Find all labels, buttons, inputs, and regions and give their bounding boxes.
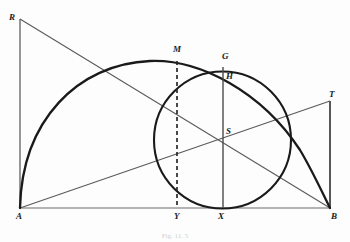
large-arc-amb [20,61,330,208]
point-label-m: M [173,45,181,54]
point-label-t: T [329,90,335,99]
diagonal-segment-at [20,101,330,208]
point-label-g: G [222,52,229,61]
point-label-h: H [226,72,233,81]
point-label-s: S [226,127,231,136]
point-label-a: A [16,212,22,221]
figure-caption: Fig. 11. 5 [0,232,350,240]
point-label-b: B [331,212,337,221]
point-label-x: X [218,212,224,221]
figure-canvas [0,0,350,242]
point-label-r: R [9,13,15,22]
geometric-figure: R M G H T S A Y X B Fig. 11. 5 [0,0,350,242]
point-label-y: Y [174,212,180,221]
